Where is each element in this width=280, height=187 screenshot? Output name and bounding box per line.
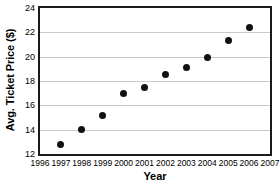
y-tick-label: 22 [25, 28, 35, 37]
y-tick-label: 16 [25, 101, 35, 110]
x-tick-label: 2006 [240, 158, 259, 169]
x-axis-title-label: Year [38, 170, 272, 182]
x-tick-label: 2005 [219, 158, 238, 169]
data-point [162, 71, 169, 78]
x-tick-label: 2004 [198, 158, 217, 169]
x-tick-label: 2000 [114, 158, 133, 169]
x-tick-label: 1998 [72, 158, 91, 169]
data-point [246, 24, 253, 31]
y-axis-title-label: Avg. Ticket Price ($) [4, 29, 16, 131]
y-tick-label: 14 [25, 125, 35, 134]
x-tick-label: 2007 [261, 158, 280, 169]
y-tick-label: 24 [25, 4, 35, 13]
x-tick-label: 1997 [51, 158, 70, 169]
data-point [204, 54, 211, 61]
x-tick-label: 2002 [156, 158, 175, 169]
data-point [141, 84, 148, 91]
y-axis-tick-labels: 12141618202224 [18, 0, 37, 160]
data-point [225, 37, 232, 44]
y-axis-title: Avg. Ticket Price ($) [0, 0, 20, 160]
x-tick-label: 1996 [31, 158, 50, 169]
scatter-chart: Avg. Ticket Price ($) 12141618202224 199… [0, 0, 280, 187]
plot-area [38, 6, 272, 156]
data-point [120, 90, 127, 97]
y-tick-label: 18 [25, 77, 35, 86]
data-point [183, 64, 190, 71]
x-tick-label: 1999 [93, 158, 112, 169]
x-tick-label: 2003 [177, 158, 196, 169]
data-point [78, 126, 85, 133]
data-point-series [40, 8, 270, 154]
data-point [57, 141, 64, 148]
x-tick-label: 2001 [135, 158, 154, 169]
y-tick-label: 20 [25, 52, 35, 61]
data-point [99, 112, 106, 119]
